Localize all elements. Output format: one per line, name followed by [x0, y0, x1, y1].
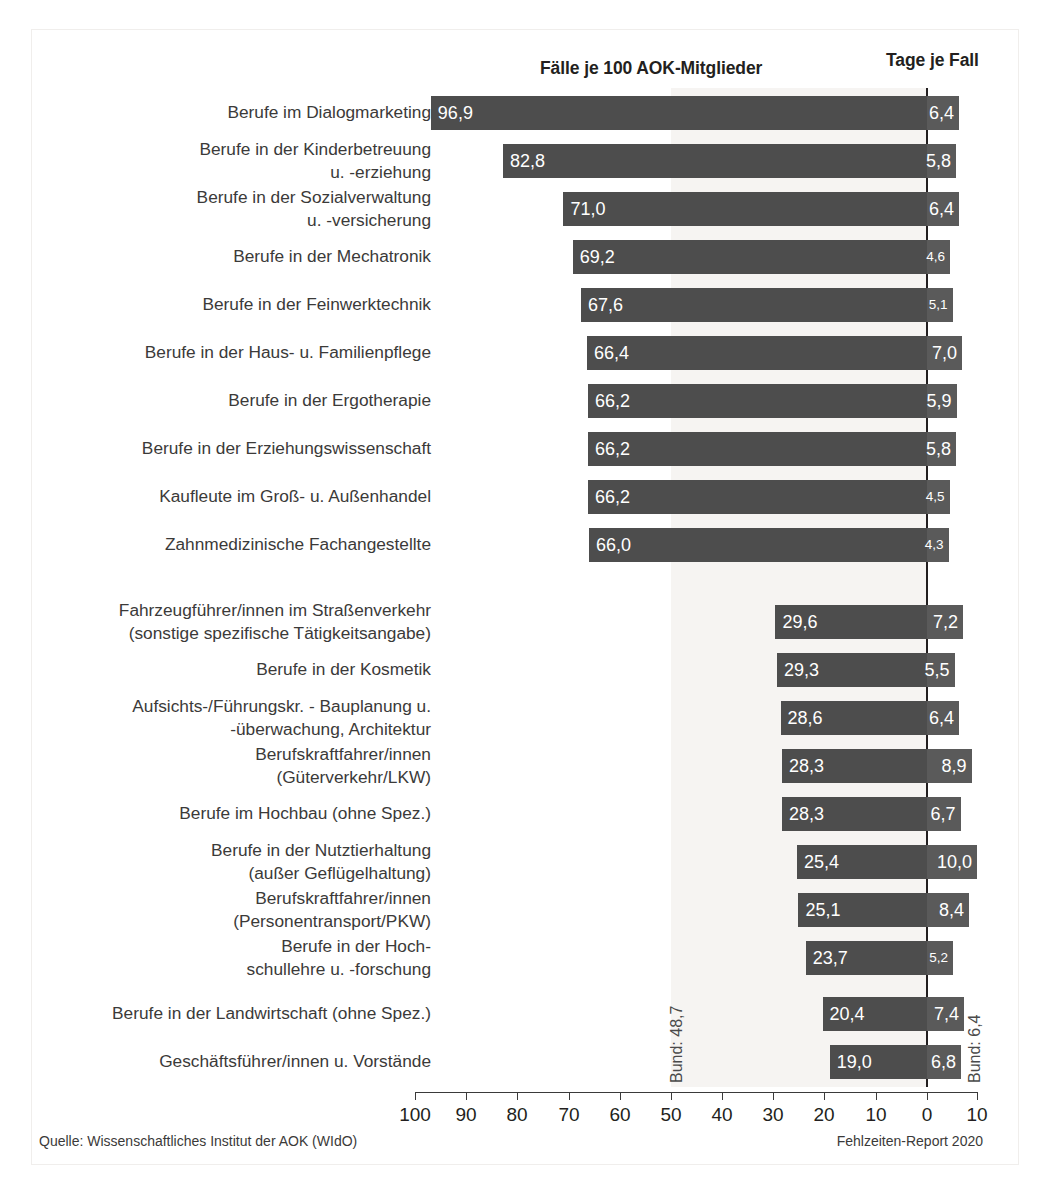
chart-row: Berufe in der Hoch- schullehre u. -forsc…: [0, 941, 1053, 975]
bar-faelle: 71,0: [563, 192, 927, 226]
category-label: Berufe in der Hoch- schullehre u. -forsc…: [11, 935, 431, 980]
axis-tick-label: 30: [762, 1104, 783, 1126]
bar-value-tage: 6,4: [929, 192, 954, 226]
bar-tage: 7,2: [927, 605, 963, 639]
category-label: Berufe in der Kinderbetreuung u. -erzieh…: [11, 138, 431, 183]
category-label: Berufe in der Haus- u. Familienpflege: [11, 341, 431, 364]
bar-faelle: 69,2: [573, 240, 927, 274]
bar-value-faelle: 82,8: [510, 144, 545, 178]
chart-row: Berufe im Hochbau (ohne Spez.)28,36,7: [0, 797, 1053, 831]
bar-faelle: 25,1: [798, 893, 927, 927]
bar-value-tage: 6,4: [929, 96, 954, 130]
x-axis-line: [415, 1092, 977, 1093]
bar-tage: 6,4: [927, 96, 959, 130]
axis-tick-label: 0: [922, 1104, 933, 1126]
bar-faelle: 28,3: [782, 749, 927, 783]
bar-value-tage: 6,4: [929, 701, 954, 735]
axis-tick-label: 70: [558, 1104, 579, 1126]
axis-tick-label: 60: [609, 1104, 630, 1126]
axis-tick-label: 40: [711, 1104, 732, 1126]
bar-value-tage: 10,0: [937, 845, 972, 879]
bar-faelle: 66,2: [588, 432, 927, 466]
bar-value-faelle: 28,3: [789, 749, 824, 783]
bund-reference-label-tage: Bund: 6,4: [966, 1015, 984, 1084]
bar-tage: 4,5: [927, 480, 950, 514]
bar-tage: 6,8: [927, 1045, 961, 1079]
bar-value-tage: 5,2: [929, 941, 948, 975]
zero-axis-line: [926, 88, 928, 1087]
bar-tage: 6,4: [927, 701, 959, 735]
chart-row: Berufe in der Kosmetik29,35,5: [0, 653, 1053, 687]
axis-tick-label: 50: [660, 1104, 681, 1126]
axis-tick: [517, 1092, 518, 1100]
bar-value-faelle: 69,2: [580, 240, 615, 274]
bar-value-tage: 5,5: [924, 653, 949, 687]
axis-tick-label: 10: [966, 1104, 987, 1126]
bar-tage: 5,9: [927, 384, 957, 418]
chart-row: Berufe in der Haus- u. Familienpflege66,…: [0, 336, 1053, 370]
bar-faelle: 20,4: [823, 997, 927, 1031]
bar-faelle: 96,9: [431, 96, 927, 130]
axis-tick: [466, 1092, 467, 1100]
axis-tick: [824, 1092, 825, 1100]
category-label: Zahnmedizinische Fachangestellte: [11, 533, 431, 556]
bar-value-tage: 4,5: [926, 480, 945, 514]
axis-tick-label: 80: [506, 1104, 527, 1126]
bar-value-faelle: 66,4: [594, 336, 629, 370]
category-label: Berufe in der Landwirtschaft (ohne Spez.…: [11, 1002, 431, 1025]
bar-value-tage: 6,7: [930, 797, 955, 831]
bar-value-tage: 7,4: [934, 997, 959, 1031]
chart-row: Geschäftsführer/innen u. Vorstände19,06,…: [0, 1045, 1053, 1079]
chart-row: Berufe in der Mechatronik69,24,6: [0, 240, 1053, 274]
bar-value-tage: 5,8: [926, 144, 951, 178]
source-note: Quelle: Wissenschaftliches Institut der …: [39, 1133, 357, 1149]
category-label: Aufsichts-/Führungskr. - Bauplanung u. -…: [11, 695, 431, 740]
bar-faelle: 25,4: [797, 845, 927, 879]
bar-value-tage: 8,4: [939, 893, 964, 927]
bar-value-faelle: 28,6: [788, 701, 823, 735]
bar-value-tage: 5,8: [926, 432, 951, 466]
bar-faelle: 66,4: [587, 336, 927, 370]
category-label: Fahrzeugführer/innen im Straßenverkehr (…: [11, 599, 431, 644]
bar-tage: 5,5: [927, 653, 955, 687]
bar-value-faelle: 66,0: [596, 528, 631, 562]
chart-row: Berufe in der Feinwerktechnik67,65,1: [0, 288, 1053, 322]
bar-value-faelle: 67,6: [588, 288, 623, 322]
bar-faelle: 29,3: [777, 653, 927, 687]
category-label: Berufskraftfahrer/innen (Personentranspo…: [11, 887, 431, 932]
chart-row: Berufe in der Sozialverwaltung u. -versi…: [0, 192, 1053, 226]
bar-faelle: 29,6: [775, 605, 927, 639]
bar-value-faelle: 66,2: [595, 480, 630, 514]
bar-faelle: 28,6: [781, 701, 927, 735]
bar-faelle: 23,7: [806, 941, 927, 975]
shaded-band: [671, 88, 927, 1087]
chart-row: Zahnmedizinische Fachangestellte66,04,3: [0, 528, 1053, 562]
chart-row: Aufsichts-/Führungskr. - Bauplanung u. -…: [0, 701, 1053, 735]
chart-row: Fahrzeugführer/innen im Straßenverkehr (…: [0, 605, 1053, 639]
bar-value-faelle: 25,4: [804, 845, 839, 879]
bar-tage: 5,1: [927, 288, 953, 322]
bar-value-tage: 5,1: [929, 288, 948, 322]
bar-value-tage: 7,2: [933, 605, 958, 639]
bar-value-tage: 4,6: [926, 240, 945, 274]
bar-value-tage: 7,0: [932, 336, 957, 370]
axis-tick: [569, 1092, 570, 1100]
category-label: Berufskraftfahrer/innen (Güterverkehr/LK…: [11, 743, 431, 788]
chart-figure: Fälle je 100 AOK-Mitglieder Tage je Fall…: [0, 0, 1053, 1197]
axis-tick: [415, 1092, 416, 1100]
bar-value-faelle: 66,2: [595, 432, 630, 466]
category-label: Berufe in der Sozialverwaltung u. -versi…: [11, 186, 431, 231]
bar-tage: 5,8: [927, 432, 956, 466]
category-label: Berufe im Dialogmarketing: [11, 101, 431, 124]
chart-row: Berufe in der Kinderbetreuung u. -erzieh…: [0, 144, 1053, 178]
bar-faelle: 19,0: [830, 1045, 927, 1079]
bar-tage: 6,4: [927, 192, 959, 226]
category-label: Berufe in der Erziehungswissenschaft: [11, 437, 431, 460]
category-label: Berufe im Hochbau (ohne Spez.): [11, 802, 431, 825]
bar-tage: 10,0: [927, 845, 977, 879]
bar-tage: 8,9: [927, 749, 972, 783]
bar-value-faelle: 29,3: [784, 653, 819, 687]
bar-value-tage: 4,3: [925, 528, 944, 562]
axis-tick: [773, 1092, 774, 1100]
bar-value-tage: 8,9: [941, 749, 966, 783]
